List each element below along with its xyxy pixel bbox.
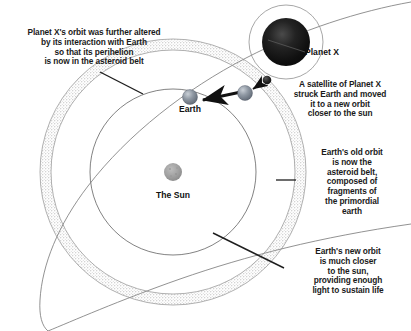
- annotation-planet-x-orbit: Planet X's orbit was further altered by …: [8, 28, 180, 67]
- label-earth: Earth: [150, 104, 230, 114]
- bottom-caption-fragment: [0, 322, 411, 331]
- earth-old-position-body: [238, 86, 253, 101]
- label-sun: The Sun: [133, 190, 213, 200]
- label-planet-x: Planet X: [305, 47, 375, 57]
- sun-body: [164, 163, 182, 181]
- annotation-earth-new-orbit: Earth's new orbit is much closer to the …: [288, 247, 408, 296]
- planet-x-body: [262, 18, 310, 66]
- annotation-asteroid-belt: Earth's old orbit is now the asteroid be…: [300, 148, 404, 216]
- annotation-satellite-impact: A satellite of Planet X struck Earth and…: [276, 80, 404, 119]
- earth-body: [183, 90, 198, 105]
- satellite-body: [263, 76, 272, 85]
- diagram-canvas: Planet X's orbit was further altered by …: [0, 0, 411, 331]
- earth-displacement-arrow: [203, 92, 241, 100]
- planetx-orbit-annotation-leader: [100, 72, 143, 94]
